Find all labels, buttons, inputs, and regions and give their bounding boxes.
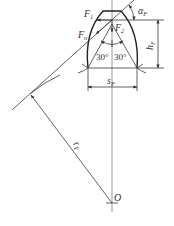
label-alpha: αF bbox=[138, 5, 148, 17]
base-curve bbox=[30, 75, 60, 94]
force-fn-arrow bbox=[96, 20, 112, 34]
radius-line bbox=[31, 95, 112, 203]
root-fillet-right bbox=[137, 68, 146, 73]
label-thickness: sF bbox=[107, 75, 116, 87]
label-angle-right: 30° bbox=[114, 52, 127, 62]
label-height: hF bbox=[144, 40, 156, 50]
gear-tooth-diagram: F1 F2 Fn αF hF sF 30° 30° rF O bbox=[0, 0, 174, 226]
label-f1: F1 bbox=[83, 8, 93, 20]
root-fillet-left bbox=[78, 68, 88, 73]
label-f2: F2 bbox=[114, 22, 125, 34]
label-angle-left: 30° bbox=[96, 52, 109, 62]
alpha-angle-arc bbox=[129, 5, 134, 20]
label-center: O bbox=[114, 192, 121, 203]
label-fn: Fn bbox=[77, 29, 87, 41]
